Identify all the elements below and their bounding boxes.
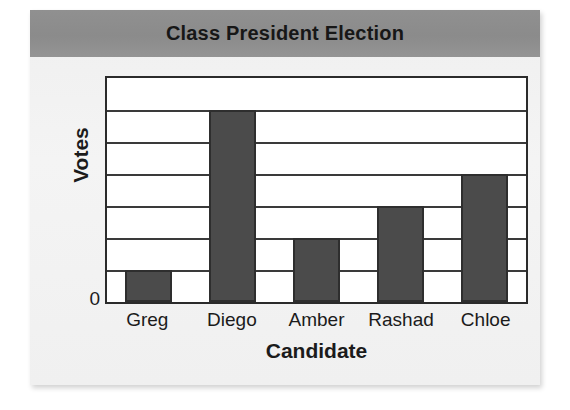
x-tick-label-rashad: Rashad [359, 306, 444, 334]
plot-area [105, 76, 528, 304]
bar-slot [191, 78, 275, 302]
chart-title-banner: Class President Election [30, 10, 540, 57]
y-axis-tick-label-0: 0 [78, 288, 100, 310]
x-tick-label-greg: Greg [105, 306, 190, 334]
bar-chloe[interactable] [461, 174, 508, 302]
bar-series [107, 78, 526, 302]
bar-rashad[interactable] [377, 206, 424, 302]
x-axis-label: Candidate [105, 336, 528, 366]
x-tick-label-diego: Diego [190, 306, 275, 334]
chart-title: Class President Election [166, 22, 404, 45]
bar-slot [275, 78, 359, 302]
chart-figure: Class President Election Votes 0 GregDie… [0, 0, 570, 410]
bar-diego[interactable] [209, 110, 256, 302]
bar-greg[interactable] [125, 270, 172, 302]
bar-amber[interactable] [293, 238, 340, 302]
x-tick-label-chloe: Chloe [443, 306, 528, 334]
y-axis-label: Votes [66, 110, 96, 200]
bar-slot [107, 78, 191, 302]
x-axis-tick-labels: GregDiegoAmberRashadChloe [105, 306, 528, 334]
x-tick-label-amber: Amber [274, 306, 359, 334]
bar-slot [358, 78, 442, 302]
bar-slot [442, 78, 526, 302]
